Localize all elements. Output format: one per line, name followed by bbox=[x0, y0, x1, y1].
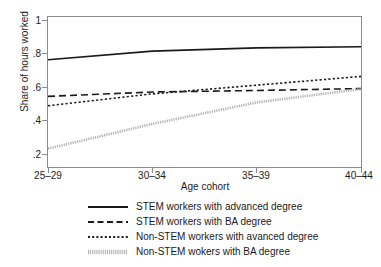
y-tick-label-1: 1 bbox=[17, 15, 41, 26]
legend-line-solid-icon bbox=[86, 201, 130, 213]
legend-item-stem-ba: STEM workers with BA degree bbox=[86, 214, 376, 229]
legend-item-stem-advanced: STEM workers with advanced degree bbox=[86, 199, 376, 214]
y-tick-label-02: .2 bbox=[17, 149, 41, 160]
legend-line-dotted-icon bbox=[86, 231, 130, 243]
chart-lines bbox=[47, 16, 362, 168]
y-tick-label-06: .6 bbox=[17, 82, 41, 93]
y-tick-label-08: .8 bbox=[17, 48, 41, 59]
legend-line-dense-dotted-icon bbox=[86, 246, 130, 258]
x-axis-title: Age cohort bbox=[48, 181, 362, 192]
legend-label-nonstem-ba: Non-STEM wokers with BA degree bbox=[136, 246, 290, 257]
y-tick-label-04: .4 bbox=[17, 115, 41, 126]
chart-figure: Share of hours worked 1 .8 .6 .4 .2 25–2… bbox=[0, 0, 381, 267]
x-tick-label-25-29: 25–29 bbox=[18, 170, 78, 181]
series-line-stem-advanced bbox=[48, 47, 361, 60]
legend-label-stem-ba: STEM workers with BA degree bbox=[136, 216, 272, 227]
x-tick-label-40-44: 40–44 bbox=[329, 170, 381, 181]
legend-label-stem-advanced: STEM workers with advanced degree bbox=[136, 201, 302, 212]
chart-legend: STEM workers with advanced degree STEM w… bbox=[86, 199, 376, 259]
series-line-nonstem-ba bbox=[48, 89, 361, 149]
legend-label-nonstem-advanced: Non-STEM workers with avanced degree bbox=[136, 231, 318, 242]
legend-item-nonstem-ba: Non-STEM wokers with BA degree bbox=[86, 244, 376, 259]
legend-line-dashed-icon bbox=[86, 216, 130, 228]
x-tick-label-35-39: 35–39 bbox=[226, 170, 286, 181]
x-tick-label-30-34: 30–34 bbox=[122, 170, 182, 181]
legend-item-nonstem-advanced: Non-STEM workers with avanced degree bbox=[86, 229, 376, 244]
